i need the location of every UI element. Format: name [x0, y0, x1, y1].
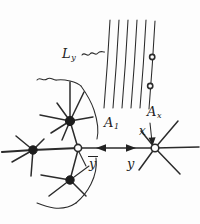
- label-Ly-base: L: [62, 46, 71, 61]
- bundle-line-1: [104, 20, 110, 108]
- label-vertex-y: y: [127, 157, 134, 170]
- diagram-svg: [0, 0, 200, 224]
- filled-vertex-lower: [66, 176, 74, 184]
- bundle-line-2: [113, 20, 119, 108]
- bundle-line-4: [131, 20, 137, 108]
- region-boundary-lower: [37, 203, 76, 208]
- open-marker-lower: [148, 83, 153, 88]
- label-Ly-sub: y: [71, 53, 76, 62]
- open-marker-upper: [150, 54, 155, 59]
- open-vertex-ybar: [74, 144, 81, 151]
- label-vertex-ybar-text: y: [89, 157, 96, 170]
- label-Ax: Ax: [147, 105, 161, 120]
- label-vertex-x: x: [139, 125, 146, 137]
- figure-canvas: Ly A1 Ax x y y: [0, 0, 200, 224]
- filled-vertex-upper: [65, 116, 74, 125]
- edge-x-vertex-ne: [155, 121, 178, 148]
- label-Ax-base: A: [147, 104, 156, 119]
- edge-ybar-sw: [78, 150, 86, 166]
- ly-leader-squiggle: [82, 52, 105, 56]
- bundle-line-6: [149, 21, 155, 109]
- label-Ly: Ly: [62, 47, 76, 62]
- graph-edges-group: [2, 82, 199, 196]
- label-A1-base: A: [104, 115, 113, 130]
- label-A1: A1: [104, 116, 119, 131]
- edge-x-vertex-se: [155, 148, 180, 174]
- open-vertex-x: [151, 144, 159, 152]
- arrow-left-head: [96, 144, 106, 152]
- bundle-line-3: [122, 20, 128, 108]
- line-bundle-group: [104, 20, 155, 109]
- edge-x-to-right-boundary: [155, 147, 199, 148]
- label-vertex-ybar: y: [89, 157, 96, 170]
- label-A1-sub: 1: [114, 122, 119, 131]
- filled-vertex-left: [29, 146, 37, 154]
- region-boundary-upper: [37, 78, 81, 86]
- arrow-right-head: [126, 144, 136, 152]
- edge-ybar-to-left-vertex: [33, 148, 78, 150]
- label-Ax-sub: x: [157, 111, 162, 120]
- bundle-line-5: [140, 20, 146, 108]
